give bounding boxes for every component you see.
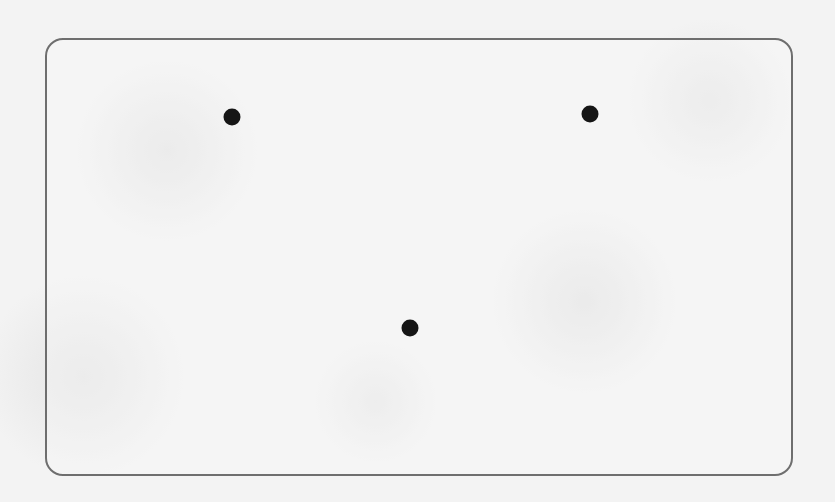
pip-dot [224,109,241,126]
card-face[interactable] [45,38,793,476]
pip-dot [582,106,599,123]
pip-dot [402,320,419,337]
